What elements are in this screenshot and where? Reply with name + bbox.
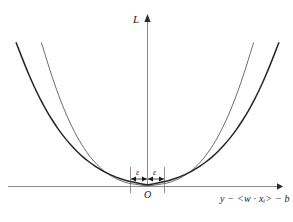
epsilon-left-label: ε	[136, 169, 139, 177]
x-axis-label: y − <w · xᵢ> − b	[220, 194, 290, 204]
y-axis-label: L	[133, 14, 139, 25]
origin-label: O	[144, 190, 151, 200]
epsilon-right-label: ε	[153, 169, 156, 177]
